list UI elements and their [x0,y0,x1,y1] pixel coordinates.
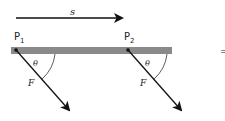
point-1-label: P1 [14,31,25,45]
angle-arc-1 [42,54,55,79]
work-diagram: s P1 θ F P2 θ F = [0,0,225,121]
angle-label-2: θ [145,59,150,68]
force-label-2: F [139,78,147,88]
bar [11,47,172,54]
angle-arc-2 [154,54,167,79]
force-arrow-2 [128,50,181,110]
equals-sign: = [220,46,225,56]
angle-label-1: θ [33,59,38,68]
force-label-1: F [27,78,35,88]
point-2-label: P2 [124,31,135,45]
displacement-label: s [70,6,75,17]
force-arrow-1 [16,50,69,110]
